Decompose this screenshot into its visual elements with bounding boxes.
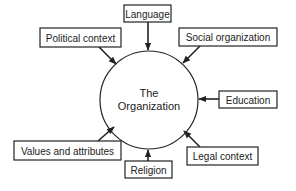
factor-education: Education <box>219 91 277 108</box>
factor-religion: Religion <box>125 161 172 178</box>
organization-node: The Organization <box>100 51 198 149</box>
factor-language: Language <box>124 5 171 22</box>
factor-legal-context: Legal context <box>187 147 258 165</box>
factor-label: Education <box>226 95 270 106</box>
arrow-legal-context <box>184 131 200 147</box>
center-label-line2: Organization <box>118 100 180 112</box>
arrow-values-and-attributes <box>98 127 114 141</box>
factor-social-organization: Social organization <box>179 28 277 46</box>
factor-label: Legal context <box>193 151 253 162</box>
factor-values-and-attributes: Values and attributes <box>14 141 121 160</box>
factor-label: Language <box>125 9 170 20</box>
arrow-political-context <box>99 47 116 64</box>
organization-factors-diagram: The Organization Language Political cont… <box>0 0 296 191</box>
center-label-line1: The <box>140 87 159 99</box>
factor-label: Social organization <box>186 32 271 43</box>
factor-label: Political context <box>46 33 116 44</box>
factor-political-context: Political context <box>40 28 121 47</box>
factor-label: Values and attributes <box>21 146 114 157</box>
arrow-social-organization <box>183 46 200 63</box>
factor-label: Religion <box>130 165 166 176</box>
